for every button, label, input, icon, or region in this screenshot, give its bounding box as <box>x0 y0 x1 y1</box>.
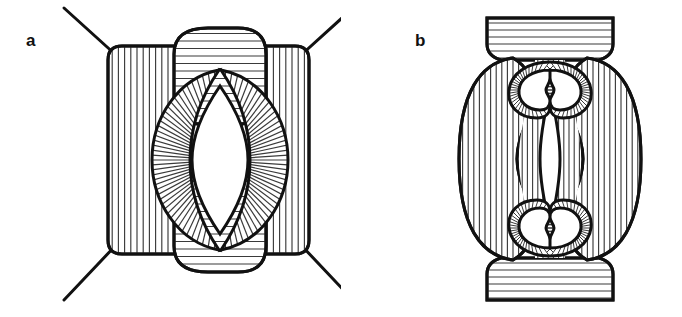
top-cap <box>485 16 615 60</box>
panel-b-label: b <box>415 31 425 50</box>
corner-ray-bottom-right-icon <box>300 244 341 300</box>
panel-a-drawing: a <box>0 0 341 317</box>
panel-a: a <box>0 0 341 317</box>
bottom-cap <box>485 256 615 300</box>
corner-ray-top-left-icon <box>64 8 117 56</box>
figure-container: a <box>0 0 682 317</box>
panel-b-drawing: b <box>341 0 682 317</box>
panel-b: b <box>341 0 682 317</box>
panel-a-label: a <box>26 31 36 50</box>
corner-ray-bottom-left-icon <box>64 244 117 300</box>
